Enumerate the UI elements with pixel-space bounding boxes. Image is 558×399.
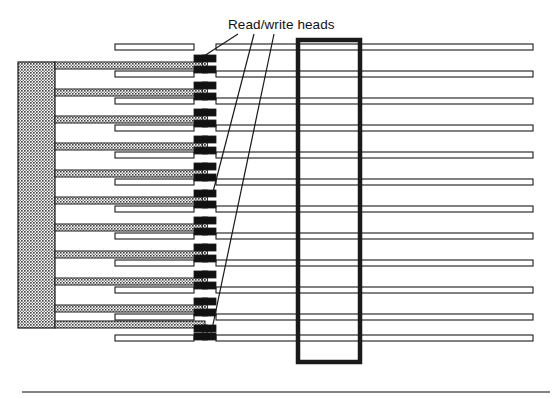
read-write-head (194, 271, 216, 278)
platter-disc (115, 71, 194, 77)
diagram-canvas (0, 0, 558, 399)
read-write-head (194, 147, 216, 154)
read-write-heads-label: Read/write heads (228, 17, 335, 32)
platter-disc (216, 314, 533, 320)
platter-stack-front (216, 44, 533, 341)
disk-drive-diagram: Read/write heads (0, 0, 558, 399)
platter-disc (216, 152, 533, 158)
read-write-head (194, 82, 216, 89)
read-write-head (194, 244, 216, 251)
platter-disc (115, 44, 194, 50)
read-write-head (194, 309, 216, 316)
platter-disc (115, 287, 194, 293)
head-arm (55, 278, 205, 285)
read-write-head (194, 163, 216, 170)
read-write-head (194, 255, 216, 262)
head-arm (55, 143, 205, 150)
platter-disc (216, 233, 533, 239)
head-arm (55, 116, 205, 123)
platter-disc (115, 206, 194, 212)
read-write-head (194, 66, 216, 73)
read-write-head (194, 282, 216, 289)
actuator-assembly (18, 62, 55, 328)
head-arm (55, 170, 205, 177)
read-write-head (194, 136, 216, 143)
head-arm (55, 321, 205, 328)
head-arm (55, 197, 205, 204)
head-arm (55, 251, 205, 258)
platter-disc (115, 98, 194, 104)
read-write-head (194, 174, 216, 181)
platter-disc (216, 98, 533, 104)
platter-disc (115, 125, 194, 131)
platter-disc (216, 44, 533, 50)
platter-disc (115, 233, 194, 239)
platter-disc (216, 179, 533, 185)
platter-disc (216, 335, 533, 341)
actuator-comb-body (18, 62, 55, 328)
platter-disc (216, 125, 533, 131)
platter-disc (115, 152, 194, 158)
head-arm (55, 62, 205, 69)
platter-disc (216, 206, 533, 212)
platter-disc (115, 335, 194, 341)
head-arm (55, 224, 205, 231)
platter-disc (216, 260, 533, 266)
read-write-head (194, 228, 216, 235)
read-write-head (194, 93, 216, 100)
platter-disc (115, 260, 194, 266)
read-write-head (194, 333, 216, 340)
read-write-head (194, 120, 216, 127)
platter-disc (115, 314, 194, 320)
leader-line-middle (213, 34, 254, 192)
platter-disc (216, 287, 533, 293)
read-write-head (194, 217, 216, 224)
platter-disc (216, 71, 533, 77)
head-arm (55, 305, 205, 312)
read-write-head (194, 298, 216, 305)
read-write-head (194, 201, 216, 208)
head-arm (55, 89, 205, 96)
read-write-head (194, 109, 216, 116)
platter-disc (115, 179, 194, 185)
